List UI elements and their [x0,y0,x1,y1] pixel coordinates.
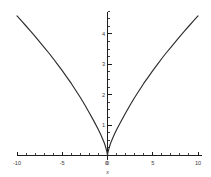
y-axis-tick-label: 3 [102,61,105,67]
x-axis-tick-label: -10 [13,160,21,166]
y-axis-tick-label: 1 [102,122,105,128]
x-axis-tick-label: 10 [195,160,201,166]
x-axis-tick-label: 5 [151,160,154,166]
y-axis: 12340 [102,11,112,165]
chart-canvas: -10-50510 12340 x [0,0,211,177]
y-axis-tick-label: 4 [102,31,105,37]
plot-root: -10-50510 12340 x [0,0,211,177]
y-axis-tick-marks [108,11,112,148]
x-axis-name-label: x [105,169,109,175]
y-axis-tick-label: 2 [102,92,105,98]
origin-tick-label: 0 [105,160,108,166]
x-axis-tick-label: -5 [60,160,65,166]
